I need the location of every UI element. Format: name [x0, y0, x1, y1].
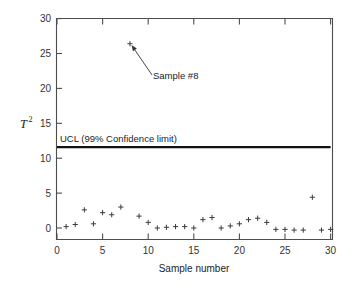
- data-point-marker: [246, 217, 251, 222]
- y-tick-label-30: 30: [40, 13, 52, 24]
- y-tick-label-10: 10: [40, 153, 52, 164]
- data-point-marker: [273, 227, 278, 232]
- data-point-marker: [136, 214, 141, 219]
- y-axis-title: T 2: [20, 115, 33, 131]
- data-point-marker: [91, 221, 96, 226]
- x-axis-ticks: [57, 234, 331, 240]
- data-point-marker: [182, 224, 187, 229]
- data-point-marker: [191, 225, 196, 230]
- ucl-label: UCL (99% Confidence limit): [60, 133, 177, 144]
- data-point-marker: [301, 227, 306, 232]
- sample-8-callout-label: Sample #8: [153, 70, 198, 81]
- plot-frame: [57, 19, 333, 240]
- data-point-marker: [237, 221, 242, 226]
- data-point-marker: [155, 225, 160, 230]
- y-tick-label-20: 20: [40, 83, 52, 94]
- x-tick-label-10: 10: [143, 245, 155, 256]
- data-point-marker: [100, 210, 105, 215]
- x-tick-label-20: 20: [234, 245, 246, 256]
- data-point-marker: [200, 217, 205, 222]
- data-point-marker: [73, 222, 78, 227]
- data-point-marker: [219, 225, 224, 230]
- data-point-marker: [228, 223, 233, 228]
- x-tick-label-0: 0: [54, 245, 60, 256]
- chart-container: 0 5 10 15 20 25 30: [0, 0, 363, 289]
- x-tick-label-15: 15: [188, 245, 200, 256]
- data-point-marker: [82, 207, 87, 212]
- data-point-marker: [118, 204, 123, 209]
- data-point-marker: [173, 224, 178, 229]
- data-point-marker: [292, 227, 297, 232]
- y-tick-label-5: 5: [45, 188, 51, 199]
- x-tick-label-25: 25: [279, 245, 291, 256]
- data-point-marker: [319, 227, 324, 232]
- t-squared-control-chart: 0 5 10 15 20 25 30: [0, 0, 363, 289]
- data-point-marker: [109, 212, 114, 217]
- x-axis-ticks-top: [57, 19, 331, 25]
- y-tick-label-0: 0: [45, 223, 51, 234]
- data-point-marker: [209, 215, 214, 220]
- x-axis-title: Sample number: [159, 263, 230, 274]
- y-tick-label-15: 15: [40, 118, 52, 129]
- y-axis-title-exponent: 2: [29, 115, 33, 124]
- y-axis-tick-labels: 0 5 10 15 20 25 30: [40, 13, 52, 233]
- x-axis-tick-labels: 0 5 10 15 20 25 30: [54, 245, 336, 256]
- y-axis-title-base: T: [20, 117, 28, 131]
- x-tick-label-30: 30: [325, 245, 337, 256]
- data-point-marker: [255, 216, 260, 221]
- data-point-marker: [146, 220, 151, 225]
- y-axis-ticks: [57, 19, 63, 228]
- x-tick-label-5: 5: [100, 245, 106, 256]
- data-point-marker: [282, 227, 287, 232]
- data-point-marker: [310, 195, 315, 200]
- data-point-marker: [264, 220, 269, 225]
- y-tick-label-25: 25: [40, 48, 52, 59]
- data-point-marker: [64, 224, 69, 229]
- data-point-marker: [164, 225, 169, 230]
- sample-8-callout-arrow: [132, 45, 153, 75]
